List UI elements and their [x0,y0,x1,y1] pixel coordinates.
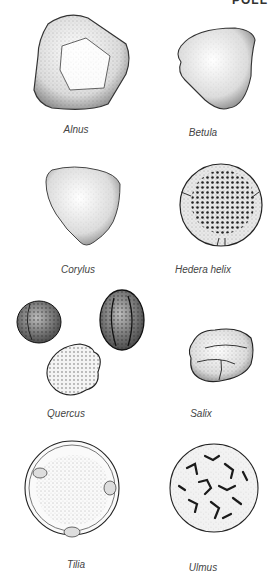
hedera-helix-pollen-illustration [135,150,270,260]
specimen-label-quercus: Quercus [11,408,121,419]
specimen-label-corylus: Corylus [23,264,133,275]
corylus-pollen-illustration [0,150,135,260]
tilia-pollen-illustration [0,430,135,550]
alnus-pollen-illustration [0,0,135,120]
betula-pollen-illustration [135,0,270,120]
specimen-label-hedera-helix: Hedera helix [148,264,258,275]
quercus-pollen-illustration [0,290,150,405]
ulmus-pollen-illustration [135,430,270,550]
specimen-label-salix: Salix [146,408,256,419]
specimen-label-alnus: Alnus [21,124,131,135]
specimen-label-ulmus: Ulmus [148,562,258,573]
specimen-label-betula: Betula [148,127,258,138]
salix-pollen-illustration [135,290,270,405]
specimen-label-tilia: Tilia [21,559,131,570]
